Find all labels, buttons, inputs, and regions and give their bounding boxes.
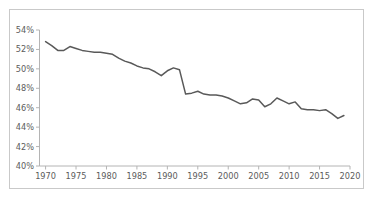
y-tick-label: 48% — [16, 83, 34, 93]
y-tick-label: 50% — [16, 64, 34, 74]
y-tick-label: 46% — [16, 103, 34, 113]
x-tick-label: 2020 — [340, 171, 361, 181]
x-tick-label: 2000 — [218, 171, 239, 181]
x-tick-label: 2010 — [279, 171, 300, 181]
y-tick-label: 54% — [16, 25, 34, 35]
x-axis: 1970197519801985199019952000200520102015… — [35, 166, 360, 181]
x-tick-label: 2015 — [309, 171, 330, 181]
x-tick-label: 1985 — [126, 171, 147, 181]
y-axis: 40%42%44%46%48%50%52%54% — [16, 25, 40, 171]
data-series-group — [46, 42, 344, 119]
y-tick-label: 42% — [16, 142, 34, 152]
y-tick-label: 52% — [16, 44, 34, 54]
x-tick-label: 1975 — [66, 171, 87, 181]
x-tick-label: 2005 — [248, 171, 269, 181]
x-tick-label: 1980 — [96, 171, 117, 181]
x-tick-label: 1990 — [157, 171, 178, 181]
y-tick-label: 44% — [16, 122, 34, 132]
y-tick-label: 40% — [16, 161, 34, 171]
data-line — [46, 42, 344, 119]
chart-figure: 40%42%44%46%48%50%52%54% 197019751980198… — [0, 0, 374, 198]
x-tick-label: 1995 — [187, 171, 208, 181]
line-chart: 40%42%44%46%48%50%52%54% 197019751980198… — [0, 0, 374, 198]
x-tick-label: 1970 — [35, 171, 56, 181]
